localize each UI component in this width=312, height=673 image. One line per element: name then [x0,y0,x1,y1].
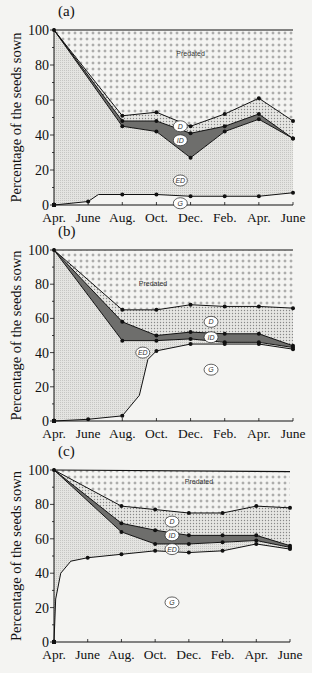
data-point [223,342,227,346]
data-point [189,131,193,135]
data-point [221,549,225,553]
y-tick-label: 40 [35,566,49,581]
y-tick-label: 20 [35,601,49,616]
data-point [223,124,227,128]
x-tick-label: Apr. [247,426,271,441]
region-label-id: ID [208,334,215,341]
data-point [154,130,158,134]
x-tick-label: Feb. [213,426,237,441]
data-point [223,332,227,336]
y-tick-label: 100 [28,243,49,258]
data-point [291,347,295,351]
y-tick-label: 40 [35,128,49,143]
region-label-d: D [209,318,214,325]
data-point [119,521,123,525]
data-point [120,124,124,128]
data-point [153,549,157,553]
data-point [189,330,193,334]
panel-title: (c) [58,443,75,460]
data-point [86,556,90,560]
data-point [254,542,258,546]
region-label-d: D [169,518,174,525]
x-tick-label: Aug. [109,210,136,225]
data-point [288,547,292,551]
data-point [291,191,295,195]
x-tick-label: Apr. [42,647,66,662]
x-tick-label: Feb. [211,647,235,662]
y-axis-label: Percentage of the seeds sown [8,470,24,641]
x-tick-label: Feb. [213,210,237,225]
x-tick-label: Aug. [108,647,135,662]
y-tick-label: 100 [28,463,49,478]
data-point [254,533,258,537]
data-point [254,504,258,508]
data-point [154,339,158,343]
data-point [257,342,261,346]
seed-fate-chart-svg: 020406080100Apr.JuneAug.Oct.Dec.Feb.Apr.… [0,0,312,673]
data-point [153,542,157,546]
region-label-g: G [208,366,214,373]
region-label-g: G [169,599,175,606]
x-tick-label: June [76,210,101,225]
panel-title: (a) [58,3,75,20]
data-point [189,124,193,128]
data-point [154,334,158,338]
data-point [257,332,261,336]
data-point [288,506,292,510]
panel-a: 020406080100Apr.JuneAug.Oct.Dec.Feb.Apr.… [8,3,305,225]
data-point [223,304,227,308]
data-point [257,194,261,198]
data-point [257,304,261,308]
data-point [189,303,193,307]
region-label-predated: Predated [139,280,168,287]
data-point [291,306,295,310]
region-label-ed: ED [167,546,177,553]
data-point [187,542,191,546]
seed-fate-figure: 020406080100Apr.JuneAug.Oct.Dec.Feb.Apr.… [0,0,312,673]
region-label-id: ID [169,532,176,539]
x-tick-label: Apr. [42,426,66,441]
data-point [254,539,258,543]
y-tick-label: 80 [35,277,49,292]
data-point [120,414,124,418]
data-point [154,308,158,312]
data-point [119,552,123,556]
x-tick-label: Oct. [144,647,167,662]
region-label-id: ID [177,137,184,144]
region-label-ed: ED [138,349,148,356]
y-tick-label: 60 [35,311,49,326]
panel-c: 020406080100Apr.JuneAug.Oct.Dec.Feb.Apr.… [8,443,302,662]
y-tick-label: 80 [35,58,49,73]
x-tick-label: Apr. [247,210,271,225]
data-point [119,530,123,534]
x-tick-label: Oct. [145,210,168,225]
data-point [187,551,191,555]
data-point [187,511,191,515]
x-tick-label: Dec. [178,210,203,225]
panel-b: 020406080100Apr.JuneAug.Oct.Dec.Feb.Apr.… [8,223,305,441]
data-point [154,119,158,123]
data-point [257,96,261,100]
panel-title: (b) [58,223,76,240]
region-label-predated: Predated [176,50,205,57]
x-tick-label: June [76,426,101,441]
data-point [120,114,124,118]
y-tick-label: 60 [35,93,49,108]
region-label-predated: Predated [185,478,214,485]
y-tick-label: 80 [35,497,49,512]
data-point [120,119,124,123]
data-point [221,540,225,544]
y-tick-label: 40 [35,346,49,361]
data-point [153,528,157,532]
data-point [189,337,193,341]
y-tick-label: 60 [35,532,49,547]
y-tick-label: 20 [35,163,49,178]
x-tick-label: June [281,426,306,441]
data-point [189,342,193,346]
data-point [154,349,158,353]
data-point [223,112,227,116]
data-point [291,119,295,123]
data-point [119,504,123,508]
data-point [189,194,193,198]
y-axis-label: Percentage of the seeds sown [8,250,24,421]
